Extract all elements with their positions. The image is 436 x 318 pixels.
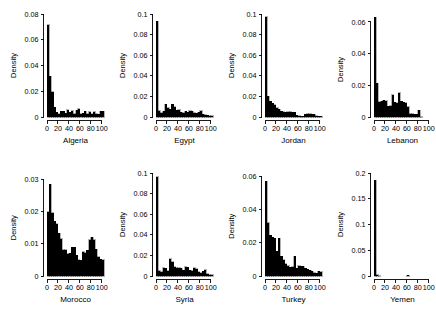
x-tick-label: 100 <box>96 124 108 133</box>
histogram-bar <box>178 110 180 117</box>
histogram-bar <box>69 253 71 276</box>
x-tick-label: 0 <box>263 124 267 133</box>
x-tick-label: 60 <box>76 283 84 292</box>
histogram-bar <box>204 115 206 117</box>
x-axis-label-country: Morocco <box>60 295 91 304</box>
histogram-bar <box>160 272 162 276</box>
histogram-bar <box>413 114 415 117</box>
histogram-bar <box>160 113 162 117</box>
histogram-bar <box>381 101 383 117</box>
histogram-panel-egypt: 00.020.040.060.080.1Density020406080100E… <box>109 0 218 159</box>
histogram-bar <box>374 180 376 276</box>
histogram-bar <box>182 113 184 117</box>
y-axis-label: Density <box>227 53 236 78</box>
histogram-bar <box>171 104 173 117</box>
histogram-bar <box>416 114 418 117</box>
y-axis-label: Density <box>336 212 345 237</box>
histogram-bar <box>191 271 193 276</box>
histogram-bar <box>202 114 204 117</box>
histogram-bar <box>78 109 80 117</box>
histogram-bar <box>309 270 311 276</box>
histogram-bar <box>385 101 387 117</box>
histogram-bar <box>82 113 84 117</box>
histogram-bar <box>283 112 285 117</box>
histogram-bars <box>156 177 213 276</box>
histogram-bar <box>267 223 269 276</box>
y-tick-label: 0.06 <box>134 51 148 60</box>
histogram-bar <box>265 181 267 276</box>
histogram-bar <box>187 112 189 117</box>
x-axis-label-country: Jordan <box>281 136 305 145</box>
x-tick-label: 100 <box>205 124 217 133</box>
x-tick-label: 60 <box>185 283 193 292</box>
x-tick-label: 20 <box>272 283 280 292</box>
histogram-bar <box>198 112 200 117</box>
histogram-bar <box>80 260 82 276</box>
histogram-bar <box>304 114 306 117</box>
y-tick-label: 0.1 <box>356 220 366 229</box>
histogram-bar <box>280 111 282 117</box>
y-tick-label: 0.2 <box>356 169 366 178</box>
y-tick-label: 0.04 <box>243 71 257 80</box>
histogram-bar <box>291 112 293 117</box>
histogram-bar <box>51 92 53 117</box>
histogram-bar <box>86 114 88 117</box>
histogram-bar <box>54 221 56 276</box>
y-tick-label: 0 <box>253 113 257 122</box>
x-tick-label: 0 <box>372 124 376 133</box>
histogram-bar <box>178 268 180 276</box>
histogram-bar <box>102 260 104 276</box>
histogram-bar <box>169 259 171 276</box>
y-tick-label: 0.02 <box>134 251 148 260</box>
histogram-bar <box>60 239 62 276</box>
histogram-bar <box>287 112 289 117</box>
histogram-bar <box>202 271 204 276</box>
histogram-bar <box>100 259 102 276</box>
histogram-bar <box>189 270 191 276</box>
y-axis: 00.020.040.060.080.1 <box>134 169 153 281</box>
histogram-bar <box>73 114 75 117</box>
y-tick-label: 0.06 <box>134 210 148 219</box>
x-axis: 020406080100 <box>372 280 435 293</box>
histogram-bar <box>300 266 302 276</box>
y-axis-label: Density <box>118 53 127 78</box>
x-tick-label: 80 <box>196 124 204 133</box>
histogram-bar <box>396 103 398 117</box>
histogram-bar <box>315 273 317 276</box>
histogram-bar <box>89 112 91 117</box>
y-tick-label: 0.06 <box>352 18 366 27</box>
y-axis-label: Density <box>227 213 236 238</box>
histogram-bar <box>313 273 315 276</box>
histogram-bar <box>300 116 302 117</box>
histogram-bar <box>78 260 80 276</box>
y-axis-label: Density <box>9 215 18 240</box>
histogram-bar <box>71 111 73 117</box>
histogram-bar <box>93 240 95 276</box>
histogram-bar <box>320 116 322 117</box>
histogram-bar <box>311 271 313 276</box>
x-axis: 020406080100 <box>45 121 108 134</box>
histogram-bar <box>307 269 309 276</box>
x-tick-label: 0 <box>154 124 158 133</box>
histogram-bar <box>56 224 58 276</box>
histogram-bar <box>193 268 195 276</box>
histogram-bar <box>165 104 167 117</box>
histogram-bar <box>76 255 78 276</box>
histogram-bar <box>298 266 300 276</box>
histogram-bar <box>294 112 296 117</box>
histogram-bars <box>47 184 104 276</box>
histogram-bar <box>189 111 191 117</box>
histogram-panel-lebanon: 00.020.040.06Density020406080100Lebanon <box>327 0 436 159</box>
x-tick-label: 60 <box>294 124 302 133</box>
histogram-bars <box>374 180 409 276</box>
histogram-panel-turkey: 00.020.040.06Density020406080100Turkey <box>218 159 327 318</box>
y-tick-label: 0.02 <box>243 92 257 101</box>
histogram-bar <box>291 267 293 276</box>
histogram-bar <box>47 25 49 117</box>
histogram-bar <box>374 17 376 117</box>
histogram-bar <box>171 262 173 276</box>
histogram-grid-figure: 00.020.040.060.08Density020406080100Alge… <box>0 0 436 318</box>
histogram-bar <box>289 267 291 276</box>
histogram-bar <box>211 116 213 117</box>
histogram-bar <box>411 114 413 117</box>
